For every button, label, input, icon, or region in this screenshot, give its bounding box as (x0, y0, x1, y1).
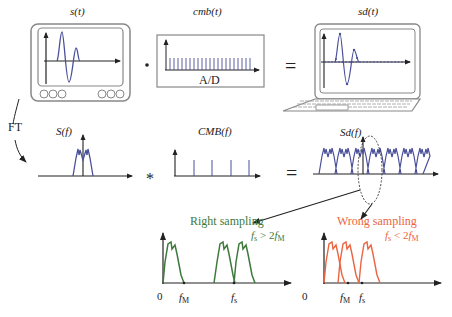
right-origin-label: 0 (157, 290, 163, 302)
multiply-operator (145, 63, 149, 67)
equals-operator-mid: = (286, 162, 297, 185)
wrong-tick-fm: fM (340, 291, 350, 305)
ad-label: A/D (199, 73, 220, 88)
wrong-sampling-title: Wrong sampling (337, 214, 417, 229)
comb-label: cmb(t) (193, 5, 222, 17)
right-sampling-title: Right sampling (190, 214, 264, 229)
wrong-sampling-condition: fs < 2fM (385, 229, 419, 243)
right-tick-fs: fs (231, 291, 237, 305)
wrong-tick-fs: fs (359, 291, 365, 305)
spectrum-cmb-plot (174, 150, 260, 176)
wrong-origin-label: 0 (302, 290, 308, 302)
spectrum-cmb-label: CMB(f) (198, 125, 232, 137)
ft-label: FT (8, 120, 22, 135)
sampling-diagram: s(t) cmb(t) A/D sd(t) = FT S(f) * CMB(f)… (0, 0, 452, 317)
spectrum-sd-label: Sd(f) (340, 126, 361, 138)
spectrum-s-label: S(f) (56, 125, 72, 137)
right-sampling-condition: fs > 2fM (251, 229, 285, 243)
right-tick-fm: fM (179, 291, 189, 305)
oscilloscope-icon (31, 24, 130, 101)
signal-label: s(t) (70, 5, 85, 17)
spectrum-sd-plot (313, 136, 438, 204)
wrong-sampling-plot (323, 233, 441, 284)
result-label: sd(t) (358, 5, 378, 17)
laptop-icon (283, 24, 420, 111)
spectrum-s-plot (38, 135, 132, 176)
ft-arrow (15, 140, 26, 162)
zoom-ellipse (358, 136, 382, 204)
convolve-operator: * (146, 170, 154, 188)
equals-operator-top: = (285, 55, 296, 78)
